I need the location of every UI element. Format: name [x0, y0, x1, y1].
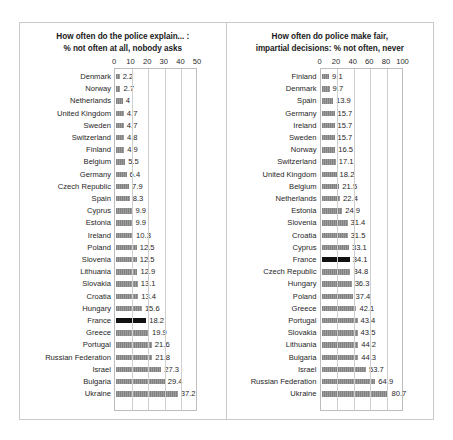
bar-row: Spain13.9: [321, 95, 402, 107]
bar-row: Denmark2.2: [115, 71, 196, 83]
gridline: [148, 69, 149, 410]
x-axis-right: 020406080100: [227, 55, 434, 68]
bar-value-label: 9.9: [135, 205, 146, 217]
bar: [322, 269, 351, 274]
bar-row: Poland12.5: [115, 242, 196, 254]
chart-title-right: How often do police make fair, impartial…: [227, 23, 434, 54]
bar-row: Bulgaria29.4: [115, 376, 196, 388]
category-label: Switzerland: [72, 132, 111, 144]
bar-value-label: 43.5: [361, 327, 376, 339]
x-tick-label: 100: [396, 55, 409, 68]
category-label: Finland: [292, 71, 317, 83]
bar-value-label: 15.7: [338, 120, 353, 132]
bar-row: Denmark9.7: [321, 83, 402, 95]
category-label: Slovakia: [82, 278, 111, 290]
category-label: Portugal: [288, 315, 316, 327]
bar-value-label: 16.5: [338, 144, 353, 156]
x-tick-label: 80: [382, 55, 390, 68]
bar-row: Sweden4.7: [115, 120, 196, 132]
bar-row: United Kingdom4.7: [115, 108, 196, 120]
bar: [116, 391, 178, 396]
bar-row: Lithuania12.9: [115, 266, 196, 278]
category-label: Poland: [293, 291, 317, 303]
category-label: Hungary: [288, 278, 317, 290]
bar-row: Switzerland17.1: [321, 156, 402, 168]
category-label: Sweden: [84, 120, 111, 132]
bar-row: Ireland15.7: [321, 120, 402, 132]
bar-value-label: 34.1: [353, 254, 368, 266]
category-label: Netherlands: [276, 193, 317, 205]
category-label: Cyprus: [87, 205, 111, 217]
bar: [322, 233, 348, 238]
bar-value-label: 37.4: [356, 291, 371, 303]
bar-value-label: 36.3: [355, 278, 370, 290]
gridline: [337, 69, 338, 410]
bar-row: Slovenia12.5: [115, 254, 196, 266]
plot-wrap-left: Denmark2.2Norway2.7Netherlands4United Ki…: [20, 68, 226, 413]
bar-value-label: 7.9: [132, 181, 143, 193]
category-label: Ukraine: [85, 388, 111, 400]
bar-row: Cyprus33.1: [321, 242, 402, 254]
bar-value-label: 9.9: [135, 217, 146, 229]
bar-row: France18.2: [115, 315, 196, 327]
bar: [322, 147, 336, 152]
bar: [116, 220, 132, 225]
bar: [116, 208, 132, 213]
bar: [322, 123, 335, 128]
bar: [116, 135, 124, 140]
bar-value-label: 43.4: [361, 315, 376, 327]
category-label: Ireland: [293, 120, 316, 132]
x-tick-label: 20: [143, 55, 151, 68]
bar: [322, 135, 335, 140]
category-label: Ireland: [88, 230, 111, 242]
bar-row: Switzerland4.8: [115, 132, 196, 144]
category-label: Spain: [297, 95, 316, 107]
bar-highlighted: [322, 257, 350, 262]
bar: [116, 159, 125, 164]
bar-row: Netherlands4: [115, 95, 196, 107]
category-label: Bulgaria: [289, 352, 317, 364]
bar: [322, 245, 349, 250]
bar: [116, 355, 152, 360]
category-label: Ukraine: [290, 388, 316, 400]
bar-value-label: 21.5: [342, 181, 357, 193]
bar-row: Belgium21.5: [321, 181, 402, 193]
category-label: United Kingdom: [57, 108, 111, 120]
category-label: Czech Republic: [58, 181, 111, 193]
bar-row: Bulgaria44.3: [321, 352, 402, 364]
bar: [322, 208, 343, 213]
category-label: Estonia: [86, 217, 111, 229]
category-label: Belgium: [84, 156, 111, 168]
category-label: Germany: [80, 169, 111, 181]
gridline: [181, 69, 182, 410]
bar-row: Israel53.7: [321, 364, 402, 376]
bar-row: Czech Republic7.9: [115, 181, 196, 193]
bar-row: Russian Federation21.8: [115, 352, 196, 364]
x-tick-label: 60: [365, 55, 373, 68]
chart-title-left-line-2: % not often at all, nobody asks: [26, 43, 220, 55]
bar-value-label: 37.2: [181, 388, 196, 400]
bar-rows-left: Denmark2.2Norway2.7Netherlands4United Ki…: [115, 69, 196, 410]
bar-row: Sweden15.7: [321, 132, 402, 144]
chart-panel-right: How often do police make fair, impartial…: [227, 23, 434, 419]
bar: [322, 379, 376, 384]
category-label: Cyprus: [292, 242, 316, 254]
bar-value-label: 17.1: [339, 156, 354, 168]
category-label: Croatia: [87, 291, 111, 303]
x-tick-label: 40: [348, 55, 356, 68]
category-label: Portugal: [83, 339, 111, 351]
plot-area-right: Finland9.1Denmark9.7Spain13.9Germany15.7…: [320, 68, 403, 411]
bar-row: Greece19.9: [115, 327, 196, 339]
bar-row: Germany6.4: [115, 169, 196, 181]
bar: [116, 257, 137, 262]
bar-row: Finland9.1: [321, 71, 402, 83]
category-label: Israel: [92, 364, 111, 376]
gridline: [387, 69, 388, 410]
bar-value-label: 42.1: [359, 303, 374, 315]
bar-row: Lithuania44.2: [321, 339, 402, 351]
bar-value-label: 13.9: [336, 95, 351, 107]
bar-row: Norway16.5: [321, 144, 402, 156]
category-label: Norway: [85, 83, 111, 95]
bar-row: Slovakia43.5: [321, 327, 402, 339]
category-label: France: [87, 315, 111, 327]
